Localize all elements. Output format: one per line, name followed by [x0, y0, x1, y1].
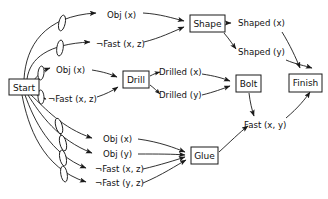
- edge-obj-y-glue-to-glue: [138, 154, 185, 155]
- node-start[interactable]: Start: [9, 79, 39, 95]
- edge-obj-x-drill-to-drill: [92, 70, 117, 77]
- edge-glue-to-fast-xy: [219, 126, 248, 152]
- node-glue-label: Glue: [194, 151, 215, 161]
- node-drill[interactable]: Drill: [123, 71, 149, 88]
- edge-label-not-fast-xz-drill: ¬Fast (x, z): [48, 94, 97, 104]
- edges-into-shape: [143, 13, 184, 42]
- edge-label-not-fast-xz-top: ¬Fast (x, z): [96, 39, 145, 49]
- edge-fast-xy-to-finish: [286, 92, 310, 118]
- node-bolt-label: Bolt: [240, 79, 258, 89]
- persistence-lens-icon: [58, 150, 68, 167]
- edge-label-drilled-y: Drilled (y): [159, 90, 202, 100]
- node-start-label: Start: [13, 83, 35, 93]
- edge-not-fast-xz-top-to-shape: [144, 27, 184, 42]
- edge-shaped-y-to-finish: [286, 60, 312, 68]
- persistence-lens-icon: [57, 15, 67, 32]
- edge-start-to-not-fast-yz-glue: [22, 95, 86, 182]
- edge-bolt-to-fast-xy: [249, 93, 254, 116]
- edge-label-shaped-y: Shaped (y): [238, 47, 285, 57]
- edge-labels: Obj (x) ¬Fast (x, z) Obj (x) ¬Fast (x, z…: [48, 10, 286, 188]
- node-glue[interactable]: Glue: [191, 147, 218, 164]
- edge-not-fast-xz-glue-to-glue: [143, 157, 185, 169]
- persistence-lens-icon: [58, 134, 68, 151]
- edge-drilled-y-to-bolt: [202, 86, 230, 95]
- edge-obj-x-glue-to-glue: [138, 139, 185, 152]
- node-shape[interactable]: Shape: [190, 15, 225, 32]
- edges-into-glue: [138, 139, 186, 183]
- edge-not-fast-xz-drill-to-drill: [97, 87, 118, 97]
- edge-label-drilled-x: Drilled (x): [159, 67, 202, 77]
- persistence-lens-icon: [54, 117, 65, 134]
- node-finish-label: Finish: [293, 78, 319, 88]
- persistence-lens-icon: [59, 166, 68, 183]
- edge-label-obj-x-drill: Obj (x): [56, 65, 85, 75]
- edge-label-obj-y-glue: Obj (y): [103, 149, 132, 159]
- edge-drilled-x-to-bolt: [202, 74, 230, 81]
- edge-label-fast-xy: Fast (x, y): [244, 120, 286, 130]
- planning-graph-diagram: Start Shape Drill Bolt Finish Glue Obj (…: [0, 0, 328, 199]
- persistence-lens-icon: [56, 40, 65, 57]
- edge-label-obj-x-top: Obj (x): [107, 10, 136, 20]
- edge-label-not-fast-yz-glue: ¬Fast (y, z): [95, 178, 144, 188]
- persistence-lens-icon: [37, 66, 44, 81]
- edge-label-obj-x-glue: Obj (x): [103, 134, 132, 144]
- node-finish[interactable]: Finish: [289, 74, 322, 92]
- edges-from-shape: [224, 23, 236, 49]
- edges-into-bolt: [202, 74, 230, 95]
- edge-obj-x-top-to-shape: [143, 13, 184, 21]
- node-bolt[interactable]: Bolt: [236, 75, 261, 92]
- edge-shape-to-shaped-y: [224, 33, 236, 49]
- edge-label-shaped-x: Shaped (x): [238, 18, 285, 28]
- node-shape-label: Shape: [193, 19, 222, 29]
- edge-label-not-fast-xz-glue: ¬Fast (x, z): [95, 164, 144, 174]
- node-drill-label: Drill: [127, 75, 145, 85]
